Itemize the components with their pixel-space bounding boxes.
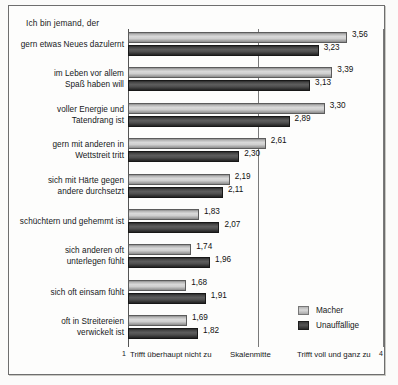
value-label-macher: 3,39 <box>337 65 353 74</box>
category-label: oft in Streitereienverwickelt ist <box>0 316 124 338</box>
category-label: voller Energie undTatendrang ist <box>0 104 124 126</box>
value-label-unauffaellige: 3,13 <box>315 78 331 87</box>
value-label-macher: 3,56 <box>352 30 368 39</box>
axis-captions: 1 Trifft überhaupt nicht zu Skalenmitte … <box>9 350 386 364</box>
category-label: sich anderen oftunterlegen fühlt <box>0 245 124 267</box>
bar-macher <box>128 138 266 149</box>
category-label: gern etwas Neues dazulernt <box>0 39 124 50</box>
value-label-macher: 1,69 <box>192 313 208 322</box>
bar-unauffaellige <box>128 257 210 268</box>
bar-macher <box>128 244 191 255</box>
bar-unauffaellige <box>128 187 223 198</box>
bar-group: gern etwas Neues dazulernt3,563,23 <box>9 29 386 61</box>
bar-unauffaellige <box>128 328 198 339</box>
value-label-unauffaellige: 2,89 <box>295 114 311 123</box>
bar-macher <box>128 174 230 185</box>
chart-title: Ich bin jemand, der <box>26 18 99 28</box>
value-label-macher: 1,83 <box>204 207 220 216</box>
value-label-unauffaellige: 2,30 <box>244 149 260 158</box>
axis-caption-min-number: 1 <box>122 350 126 357</box>
value-label-unauffaellige: 2,07 <box>224 220 240 229</box>
bar-group: schüchtern und gehemmt ist1,832,07 <box>9 206 386 238</box>
bar-macher <box>128 280 186 291</box>
value-label-unauffaellige: 2,11 <box>228 185 243 194</box>
legend-item-macher: Macher <box>298 303 384 318</box>
value-label-unauffaellige: 3,23 <box>324 43 340 52</box>
plot-area: Ich bin jemand, der gern etwas Neues daz… <box>9 6 386 376</box>
bar-macher <box>128 32 347 43</box>
bar-group: sich mit Härte gegenandere durchsetzt2,1… <box>9 171 386 203</box>
bar-macher <box>128 315 187 326</box>
legend-item-unauffaellige: Unauffällige <box>298 318 384 333</box>
axis-caption-min-text: Trifft überhaupt nicht zu <box>130 350 211 359</box>
bar-unauffaellige <box>128 116 290 127</box>
bar-macher <box>128 103 325 114</box>
chart-frame: Ich bin jemand, der gern etwas Neues daz… <box>8 5 385 375</box>
axis-caption-mid-text: Skalenmitte <box>230 350 271 359</box>
axis-caption-max-text: Trifft voll und ganz zu <box>297 350 371 359</box>
bar-group: im Leben vor allemSpaß haben will3,393,1… <box>9 64 386 96</box>
bar-unauffaellige <box>128 293 206 304</box>
bar-group: voller Energie undTatendrang ist3,302,89 <box>9 100 386 132</box>
value-label-unauffaellige: 1,82 <box>203 326 219 335</box>
axis-caption-max-number: 4 <box>379 350 383 357</box>
category-label: sich mit Härte gegenandere durchsetzt <box>0 175 124 197</box>
bar-macher <box>128 209 199 220</box>
value-label-unauffaellige: 1,91 <box>211 291 227 300</box>
chart-legend: Macher Unauffällige <box>298 303 384 333</box>
category-label: gern mit anderen inWettstreit tritt <box>0 139 124 161</box>
bar-unauffaellige <box>128 222 219 233</box>
bar-unauffaellige <box>128 45 319 56</box>
value-label-macher: 2,61 <box>271 136 287 145</box>
value-label-unauffaellige: 1,96 <box>215 255 231 264</box>
legend-label-macher: Macher <box>316 306 343 315</box>
legend-swatch-unauffaellige <box>298 321 309 330</box>
chart-page: Ich bin jemand, der gern etwas Neues daz… <box>0 0 398 385</box>
category-label: sich oft einsam fühlt <box>0 287 124 298</box>
bar-macher <box>128 67 332 78</box>
legend-swatch-macher <box>298 306 309 315</box>
category-label: schüchtern und gehemmt ist <box>0 216 124 227</box>
bar-group: gern mit anderen inWettstreit tritt2,612… <box>9 135 386 167</box>
value-label-macher: 1,68 <box>191 278 207 287</box>
category-label: im Leben vor allemSpaß haben will <box>0 68 124 90</box>
bar-unauffaellige <box>128 151 239 162</box>
value-label-macher: 2,19 <box>235 172 251 181</box>
legend-label-unauffaellige: Unauffällige <box>316 321 359 330</box>
value-label-macher: 1,74 <box>196 242 212 251</box>
bar-unauffaellige <box>128 80 310 91</box>
bar-group: sich anderen oftunterlegen fühlt1,741,96 <box>9 241 386 273</box>
value-label-macher: 3,30 <box>330 101 346 110</box>
